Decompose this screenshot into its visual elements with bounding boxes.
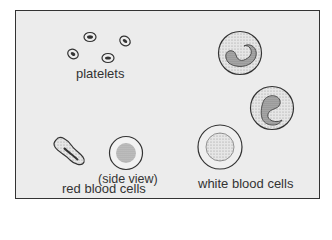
platelet-icon (84, 33, 96, 42)
platelet-icon (102, 54, 114, 63)
red-blood-cells-label: red blood cells (62, 181, 146, 196)
platelets-label: platelets (76, 66, 124, 81)
platelet-icon (118, 34, 132, 48)
white-blood-cell-icon (198, 125, 242, 169)
white-blood-cells-label: white blood cells (198, 176, 293, 191)
red-blood-cell-icon (110, 137, 143, 170)
white-blood-cell-icon (251, 87, 294, 130)
platelet-icon (66, 47, 80, 60)
red-blood-cell-side-view-icon (54, 138, 84, 165)
white-blood-cell-icon (219, 32, 262, 75)
